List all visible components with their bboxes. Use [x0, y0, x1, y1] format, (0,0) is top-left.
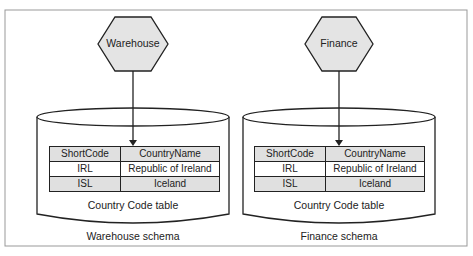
table-cell: ISL — [50, 177, 121, 192]
table-header-cell: CountryName — [121, 147, 220, 162]
table-row: IRL Republic of Ireland — [255, 162, 425, 177]
warehouse-hexagon-label: Warehouse — [98, 37, 168, 49]
table-cell: IRL — [255, 162, 326, 177]
table-cell: Iceland — [121, 177, 220, 192]
table-header-row: ShortCode CountryName — [255, 147, 425, 162]
table-row: IRL Republic of Ireland — [50, 162, 220, 177]
finance-country-code-table: ShortCode CountryName IRL Republic of Ir… — [254, 146, 425, 192]
table-cell: Iceland — [326, 177, 425, 192]
diagram-canvas — [0, 0, 473, 256]
table-header-row: ShortCode CountryName — [50, 147, 220, 162]
table-row: ISL Iceland — [255, 177, 425, 192]
warehouse-schema-label: Warehouse schema — [37, 230, 229, 242]
table-cell: IRL — [50, 162, 121, 177]
finance-schema-label: Finance schema — [243, 230, 435, 242]
table-header-cell: CountryName — [326, 147, 425, 162]
warehouse-table-caption: Country Code table — [37, 199, 229, 211]
finance-hexagon-label: Finance — [305, 37, 373, 49]
table-header-cell: ShortCode — [50, 147, 121, 162]
table-cell: Republic of Ireland — [121, 162, 220, 177]
table-header-cell: ShortCode — [255, 147, 326, 162]
table-cell: ISL — [255, 177, 326, 192]
table-row: ISL Iceland — [50, 177, 220, 192]
table-cell: Republic of Ireland — [326, 162, 425, 177]
warehouse-country-code-table: ShortCode CountryName IRL Republic of Ir… — [49, 146, 220, 192]
finance-table-caption: Country Code table — [243, 199, 435, 211]
